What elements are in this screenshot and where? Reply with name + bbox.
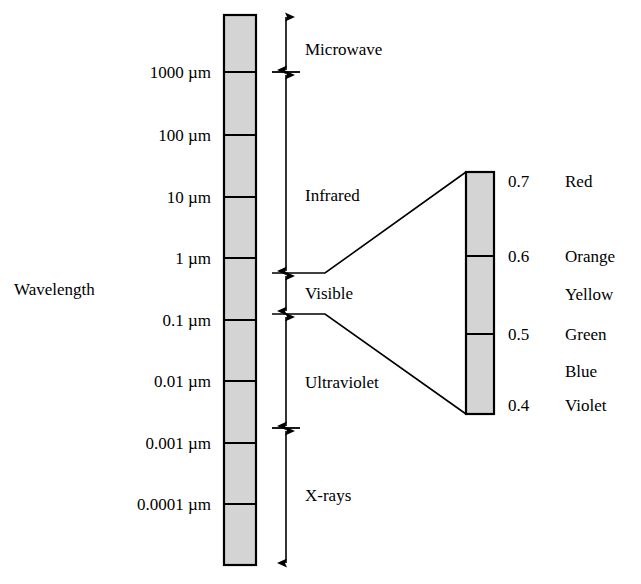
tick-label-100um: 100 µm	[41, 127, 211, 144]
main-wavelength-bar	[224, 15, 256, 565]
axis-title-wavelength: Wavelength	[14, 281, 95, 298]
inset-color-label-green: Green	[565, 326, 607, 343]
inset-value-0-5: 0.5	[508, 326, 529, 343]
band-label-microwave: Microwave	[305, 41, 382, 58]
inset-color-label-yellow: Yellow	[565, 286, 613, 303]
inset-bar-body	[466, 172, 494, 414]
tick-label-1000um: 1000 µm	[41, 64, 211, 81]
visible-inset-bar	[466, 172, 494, 414]
connector-lower	[272, 314, 466, 414]
tick-label-1um: 1 µm	[41, 250, 211, 267]
spectrum-diagram: Wavelength 1000 µm 100 µm 10 µm 1 µm 0.1…	[0, 0, 641, 584]
tick-label-0-0001um: 0.0001 µm	[41, 496, 211, 513]
inset-color-label-red: Red	[565, 173, 592, 190]
main-bar-body	[224, 15, 256, 565]
band-label-ultraviolet: Ultraviolet	[305, 374, 379, 391]
inset-color-label-orange: Orange	[565, 248, 615, 265]
inset-value-0-6: 0.6	[508, 248, 529, 265]
inset-value-0-4: 0.4	[508, 397, 529, 414]
tick-label-0-01um: 0.01 µm	[41, 373, 211, 390]
inset-color-label-blue: Blue	[565, 363, 597, 380]
band-label-xrays: X-rays	[305, 487, 351, 504]
tick-label-0-001um: 0.001 µm	[41, 435, 211, 452]
band-label-infrared: Infrared	[305, 187, 360, 204]
inset-value-0-7: 0.7	[508, 173, 529, 190]
inset-color-label-violet: Violet	[565, 397, 606, 414]
tick-label-0-1um: 0.1 µm	[41, 312, 211, 329]
band-label-visible: Visible	[305, 285, 353, 302]
tick-label-10um: 10 µm	[41, 189, 211, 206]
connector-upper	[272, 172, 466, 273]
